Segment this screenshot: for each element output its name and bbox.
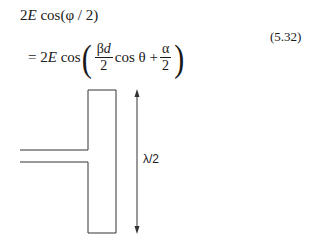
dimension-label: λ/2 — [143, 152, 159, 166]
arrow-head-up-icon — [135, 89, 140, 97]
dipole-figure — [0, 0, 324, 240]
dipole-outline — [20, 90, 116, 233]
arrow-head-down-icon — [135, 226, 140, 234]
